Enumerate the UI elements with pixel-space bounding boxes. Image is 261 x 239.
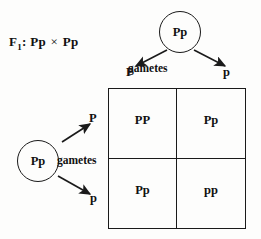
cross-label-parent-a: Pp — [30, 34, 46, 49]
cross-label: F1: Pp × Pp — [9, 34, 79, 52]
punnett-cell-top-left: PP — [109, 89, 177, 159]
punnett-cell-top-right: Pp — [177, 89, 245, 159]
gamete-left-upper: P — [89, 112, 97, 125]
cross-label-prefix: F — [9, 34, 17, 49]
punnett-cell-genotype: pp — [204, 183, 218, 198]
parent-circle-top: Pp — [159, 11, 201, 53]
gametes-label-left: gametes — [57, 154, 97, 166]
punnett-cell-genotype: Pp — [204, 113, 219, 128]
punnett-square-grid: PP Pp Pp pp — [108, 88, 246, 229]
parent-top-genotype: Pp — [173, 26, 188, 39]
parent-left-genotype: Pp — [31, 155, 46, 168]
arrow-left-to-lower-gamete — [58, 176, 90, 194]
punnett-cell-genotype: Pp — [135, 183, 150, 198]
gamete-top-right: p — [223, 66, 230, 79]
gamete-left-lower: p — [90, 192, 97, 205]
punnett-cell-bottom-left: Pp — [109, 159, 177, 229]
parent-circle-left: Pp — [17, 140, 59, 182]
gamete-top-left: P — [126, 66, 134, 79]
cross-label-parent-b: Pp — [63, 34, 79, 49]
punnett-cell-genotype: PP — [135, 113, 150, 128]
arrow-top-to-right-gamete — [194, 50, 225, 66]
arrow-left-to-upper-gamete — [62, 124, 90, 142]
cross-label-separator: : — [22, 34, 27, 49]
punnett-square-diagram: F1: Pp × Pp Pp Pp gametes gametes P p P … — [0, 0, 261, 239]
cross-label-operator: × — [50, 34, 60, 49]
punnett-cell-bottom-right: pp — [177, 159, 245, 229]
